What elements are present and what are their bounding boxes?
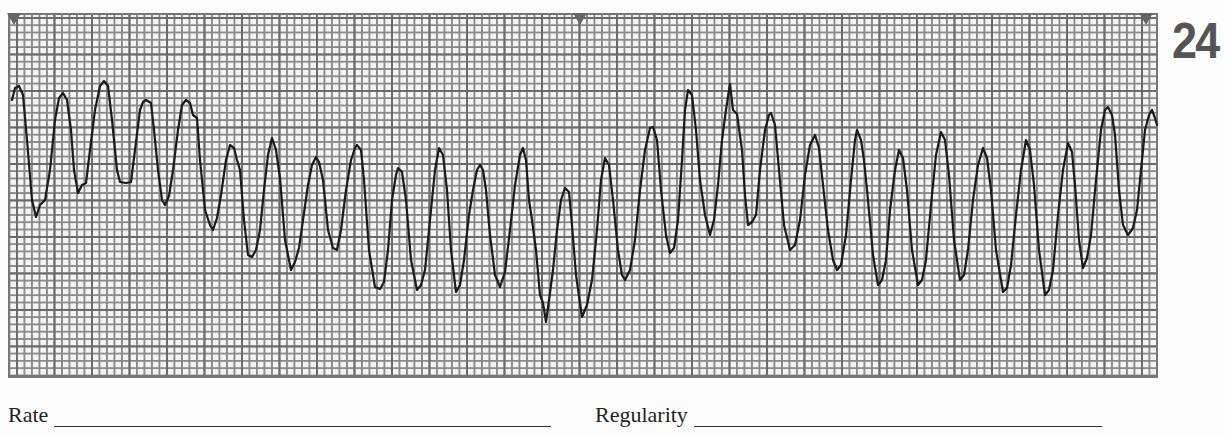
rate-label: Rate <box>8 403 48 427</box>
strip-number: 24 <box>1172 16 1218 66</box>
regularity-answer-line[interactable] <box>694 406 1102 427</box>
ecg-trace <box>0 0 1225 437</box>
regularity-label: Regularity <box>595 403 688 427</box>
regularity-field: Regularity <box>595 403 1102 427</box>
rate-field: Rate <box>8 403 551 427</box>
rate-answer-line[interactable] <box>54 406 551 427</box>
